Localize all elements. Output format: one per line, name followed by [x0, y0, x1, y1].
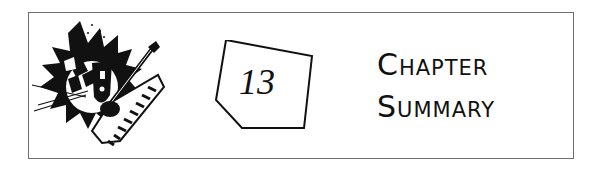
title-line-1: Chapter	[377, 44, 495, 86]
chapter-number: 13	[214, 62, 300, 102]
title-line-2: Summary	[377, 86, 495, 128]
music-clipart-icon	[30, 13, 165, 158]
chapter-title: Chapter Summary	[377, 44, 495, 128]
